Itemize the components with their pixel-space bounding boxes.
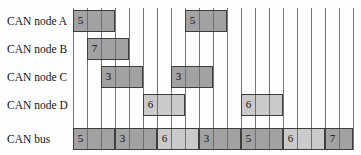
message-id-label: 5	[186, 11, 199, 30]
row-label-can-node-c: CAN node C	[7, 66, 67, 88]
message-id-label: 3	[102, 67, 115, 86]
message-id-label: 7	[88, 39, 101, 58]
node-bar-msg-3: 3	[171, 66, 213, 88]
message-id-label: 5	[74, 129, 87, 148]
bus-segment-msg-6: 6	[283, 128, 325, 150]
bus-segment-msg-7: 7	[325, 128, 353, 150]
message-id-label: 5	[242, 129, 255, 148]
message-id-label: 6	[242, 95, 255, 114]
message-id-label: 3	[172, 67, 185, 86]
message-id-label: 3	[200, 129, 213, 148]
node-bar-msg-5: 5	[73, 10, 115, 32]
node-bar-msg-6: 6	[241, 94, 283, 116]
node-bar-msg-6: 6	[143, 94, 185, 116]
node-bar-msg-7: 7	[87, 38, 129, 60]
node-bar-msg-3: 3	[101, 66, 143, 88]
message-id-label: 6	[158, 129, 171, 148]
message-id-label: 6	[144, 95, 157, 114]
row-label-can-node-a: CAN node A	[7, 10, 67, 32]
message-id-label: 3	[116, 129, 129, 148]
bus-segment-msg-3: 3	[115, 128, 157, 150]
message-id-label: 6	[284, 129, 297, 148]
node-bar-msg-5: 5	[185, 10, 227, 32]
row-label-can-bus: CAN bus	[7, 128, 50, 150]
bus-segment-msg-6: 6	[157, 128, 199, 150]
bus-segment-msg-5: 5	[73, 128, 115, 150]
can-timing-diagram: CAN node A55CAN node B7CAN node C33CAN n…	[0, 0, 361, 155]
bus-segment-msg-5: 5	[241, 128, 283, 150]
bus-segment-msg-3: 3	[199, 128, 241, 150]
message-id-label: 7	[326, 129, 339, 148]
row-label-can-node-b: CAN node B	[7, 38, 67, 60]
message-id-label: 5	[74, 11, 87, 30]
row-label-can-node-d: CAN node D	[7, 94, 68, 116]
